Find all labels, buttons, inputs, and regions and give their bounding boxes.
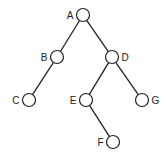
node-circle xyxy=(136,94,149,107)
tree-node-G: G xyxy=(136,94,160,107)
tree-node-A: A xyxy=(67,9,90,22)
node-label: E xyxy=(70,95,77,106)
node-circle xyxy=(107,136,120,149)
tree-node-C: C xyxy=(12,94,35,107)
tree-nodes: ABCDEFG xyxy=(12,9,159,149)
edge-A-D xyxy=(87,20,109,51)
node-circle xyxy=(106,51,119,64)
node-circle xyxy=(77,9,90,22)
node-label: D xyxy=(122,52,129,63)
edge-D-G xyxy=(116,62,139,94)
node-label: B xyxy=(41,52,48,63)
tree-node-D: D xyxy=(106,51,129,64)
edge-A-B xyxy=(60,21,79,52)
tree-node-F: F xyxy=(97,136,119,149)
edge-B-C xyxy=(33,62,54,94)
tree-edges xyxy=(33,20,139,136)
tree-diagram: ABCDEFG xyxy=(0,0,167,156)
tree-node-B: B xyxy=(41,51,64,64)
node-label: C xyxy=(12,95,19,106)
node-label: G xyxy=(152,95,160,106)
tree-node-E: E xyxy=(70,94,93,107)
edge-E-F xyxy=(90,105,110,136)
node-circle xyxy=(23,94,36,107)
node-circle xyxy=(51,51,64,64)
node-circle xyxy=(80,94,93,107)
node-label: A xyxy=(67,10,74,21)
node-label: F xyxy=(97,137,103,148)
edge-D-E xyxy=(89,63,108,95)
